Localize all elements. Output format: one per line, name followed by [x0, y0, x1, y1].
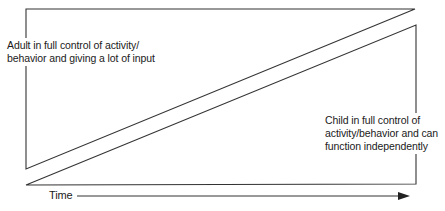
time-arrow-head — [398, 192, 410, 200]
child-label-line-1: Child in full control of — [325, 114, 438, 127]
child-label-line-3: function independently — [325, 140, 438, 153]
adult-label-line-2: behavior and giving a lot of input — [7, 52, 155, 65]
diagram-canvas — [0, 0, 445, 211]
child-control-label: Child in full control of activity/behavi… — [325, 113, 438, 154]
time-axis-label: Time — [49, 189, 73, 202]
adult-control-label: Adult in full control of activity/ behav… — [7, 38, 155, 66]
child-label-line-2: activity/behavior and can — [325, 127, 438, 140]
adult-label-line-1: Adult in full control of activity/ — [7, 39, 155, 52]
